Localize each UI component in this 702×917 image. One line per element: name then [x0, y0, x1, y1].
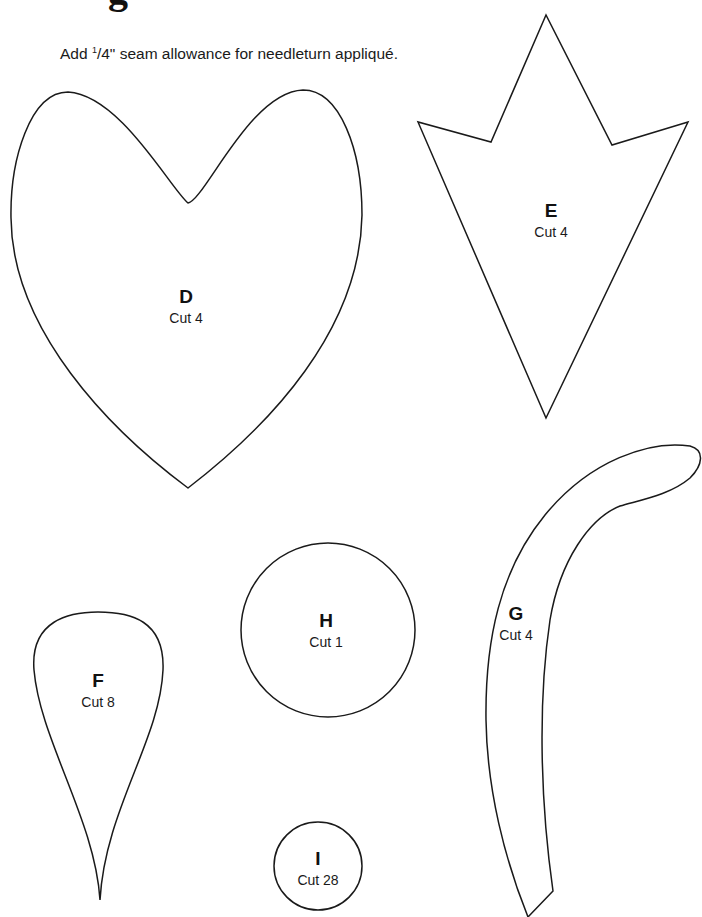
piece-e-label: E Cut 4: [534, 201, 567, 239]
piece-h-letter: H: [309, 611, 342, 630]
piece-f-label: F Cut 8: [81, 671, 114, 709]
piece-h-label: H Cut 1: [309, 611, 342, 649]
piece-f-outline: [34, 612, 163, 900]
piece-d-label: D Cut 4: [169, 287, 202, 325]
piece-h-cut-count: Cut 1: [309, 635, 342, 649]
piece-i-letter: I: [297, 849, 338, 868]
piece-g-outline: [486, 445, 701, 917]
piece-f-letter: F: [81, 671, 114, 690]
piece-d-letter: D: [169, 287, 202, 306]
pattern-sheet: [0, 0, 702, 917]
piece-e-letter: E: [534, 201, 567, 220]
piece-g-letter: G: [499, 604, 532, 623]
piece-g-label: G Cut 4: [499, 604, 532, 642]
piece-e-cut-count: Cut 4: [534, 225, 567, 239]
piece-i-cut-count: Cut 28: [297, 873, 338, 887]
piece-f-cut-count: Cut 8: [81, 695, 114, 709]
piece-d-cut-count: Cut 4: [169, 311, 202, 325]
piece-g-cut-count: Cut 4: [499, 628, 532, 642]
piece-i-label: I Cut 28: [297, 849, 338, 887]
